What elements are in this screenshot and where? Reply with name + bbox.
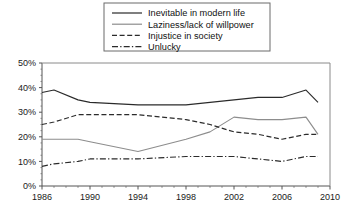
y-tick-label: 20%: [18, 132, 36, 142]
x-tick-label: 2010: [320, 192, 340, 202]
legend-label-3: Unlucky: [148, 42, 181, 52]
x-tick-label: 2002: [224, 192, 244, 202]
legend-label-0: Inevitable in modern life: [148, 8, 245, 18]
legend: Inevitable in modern lifeLaziness/lack o…: [104, 3, 270, 52]
y-tick-label: 30%: [18, 107, 36, 117]
x-tick-label: 2006: [272, 192, 292, 202]
y-tick-label: 0%: [23, 181, 36, 191]
chart-canvas: Inevitable in modern lifeLaziness/lack o…: [0, 0, 348, 213]
x-tick-label: 1998: [176, 192, 196, 202]
y-tick-label: 10%: [18, 157, 36, 167]
x-tick-label: 1994: [128, 192, 148, 202]
x-tick-label: 1986: [32, 192, 52, 202]
line-chart: Inevitable in modern lifeLaziness/lack o…: [0, 0, 348, 213]
y-tick-label: 50%: [18, 58, 36, 68]
y-tick-label: 40%: [18, 83, 36, 93]
legend-label-2: Injustice in society: [148, 31, 223, 41]
legend-label-1: Laziness/lack of willpower: [148, 20, 254, 30]
x-tick-label: 1990: [80, 192, 100, 202]
